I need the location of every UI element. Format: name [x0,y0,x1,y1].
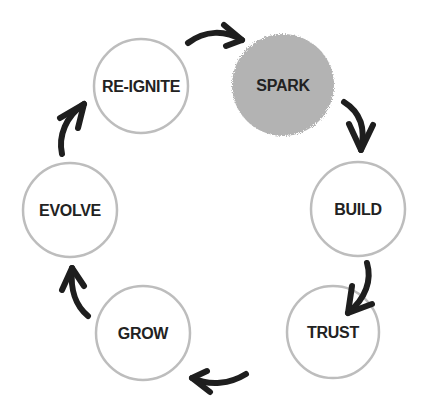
cycle-diagram: SPARK BUILD TRUST GROW EVOLVE RE-IGNITE [0,0,427,419]
node-grow-label: GROW [118,325,170,342]
node-build: BUILD [311,162,405,256]
arrow-grow-to-evolve-icon [62,268,88,316]
arrow-build-to-trust-icon [348,263,372,313]
arrow-spark-to-build-icon [344,102,373,150]
node-spark-label: SPARK [256,77,310,94]
node-trust-label: TRUST [307,324,359,341]
arrow-reignite-to-spark-icon [188,25,242,46]
node-grow: GROW [96,286,190,380]
node-re-ignite-label: RE-IGNITE [102,78,181,95]
arrow-evolve-to-reignite-icon [60,104,84,154]
node-build-label: BUILD [334,201,381,218]
node-re-ignite: RE-IGNITE [94,39,188,133]
node-trust: TRUST [287,286,379,378]
arrow-trust-to-grow-icon [192,371,246,392]
node-evolve-label: EVOLVE [39,202,102,219]
node-spark: SPARK [232,34,334,136]
node-evolve: EVOLVE [23,163,117,257]
